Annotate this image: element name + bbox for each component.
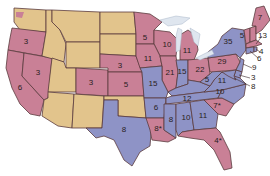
callout-NJ: 9 xyxy=(252,64,256,72)
callout-DE: 3 xyxy=(251,74,255,82)
state-CT[interactable] xyxy=(246,47,254,54)
us-map xyxy=(0,0,270,176)
label-CO: 3 xyxy=(89,79,93,87)
label-IA: 11 xyxy=(144,55,152,63)
label-MO: 15 xyxy=(149,80,158,88)
callout-CT: 6 xyxy=(257,55,261,63)
label-PA: 29 xyxy=(218,58,227,66)
state-NM[interactable] xyxy=(72,94,104,128)
label-NE: 3 xyxy=(118,62,122,70)
lake-superior xyxy=(160,16,190,26)
label-OH: 22 xyxy=(196,66,205,74)
label-KS: 5 xyxy=(124,81,128,89)
label-FL: 4* xyxy=(214,137,222,145)
label-WI: 10 xyxy=(163,41,172,49)
state-FL[interactable] xyxy=(178,128,232,170)
label-NY: 35 xyxy=(224,38,233,46)
label-VT: 5 xyxy=(240,32,244,40)
label-IL: 21 xyxy=(166,69,175,77)
state-NH[interactable] xyxy=(250,26,256,42)
label-SC: 7* xyxy=(213,102,221,110)
label-ME: 7 xyxy=(258,14,262,22)
label-GA: 11 xyxy=(199,112,207,120)
label-TX: 8 xyxy=(122,126,126,134)
label-NV: 3 xyxy=(36,69,40,77)
state-SD[interactable] xyxy=(100,34,136,56)
state-WY[interactable] xyxy=(66,42,100,68)
label-IN: 15 xyxy=(178,68,187,76)
label-VA: 11 xyxy=(218,77,226,85)
label-AL: 10 xyxy=(182,114,191,122)
callout-MD: 8 xyxy=(251,83,255,91)
callout-MA: 13 xyxy=(258,32,267,40)
label-OR: 3 xyxy=(24,38,28,46)
label-MN: 5 xyxy=(143,34,147,42)
label-CA: 6 xyxy=(18,84,22,92)
label-KY: 12 xyxy=(183,95,192,103)
label-LA: 8* xyxy=(154,125,162,133)
label-MS: 8 xyxy=(169,116,173,124)
label-NC: 10 xyxy=(216,88,225,96)
label-MI: 11 xyxy=(183,47,191,55)
label-WV: 5 xyxy=(205,76,209,84)
state-ND[interactable] xyxy=(100,12,136,34)
label-AR: 6 xyxy=(154,104,158,112)
